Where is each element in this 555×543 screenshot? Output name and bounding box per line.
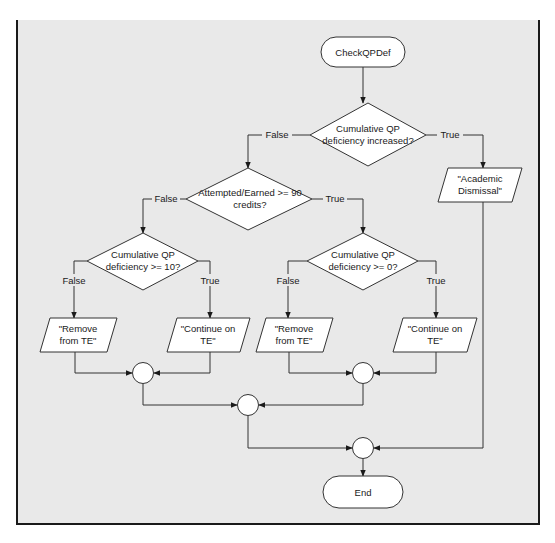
output-text: Dismissal" bbox=[458, 185, 502, 196]
output-text: "Continue on bbox=[408, 323, 463, 334]
label-d2-true: True bbox=[325, 193, 344, 204]
flowchart: False True False True False True False T… bbox=[0, 0, 555, 543]
output-remove-te-right: "Remove from TE" bbox=[256, 318, 333, 352]
output-text: "Continue on bbox=[181, 323, 236, 334]
output-text: TE" bbox=[200, 335, 216, 346]
output-continue-te-right: "Continue on TE" bbox=[393, 318, 477, 352]
edge-c1-to-c3 bbox=[143, 384, 237, 405]
start-terminal: CheckQPDef bbox=[321, 37, 405, 67]
label-d4-true: True bbox=[426, 275, 445, 286]
edge-o5-to-c2 bbox=[374, 352, 436, 373]
edge-d3-true bbox=[198, 261, 210, 318]
edge-d4-false bbox=[288, 261, 307, 318]
start-label: CheckQPDef bbox=[335, 47, 391, 58]
decision-text: deficiency >= 0? bbox=[328, 261, 397, 272]
decision-text: Cumulative QP bbox=[111, 249, 175, 260]
output-text: "Remove bbox=[59, 323, 98, 334]
edge-o2-to-c1 bbox=[75, 352, 132, 373]
connector-4 bbox=[353, 438, 374, 459]
edge-o4-to-c2 bbox=[289, 352, 352, 373]
decision-text: Attempted/Earned >= 90 bbox=[198, 187, 302, 198]
label-d3-true: True bbox=[200, 275, 219, 286]
decision-qp-ge-10: Cumulative QP deficiency >= 10? bbox=[87, 233, 198, 290]
label-d3-false: False bbox=[62, 275, 85, 286]
decision-text: deficiency >= 10? bbox=[106, 261, 180, 272]
output-academic-dismissal: "Academic Dismissal" bbox=[438, 168, 522, 202]
edge-d4-true bbox=[418, 261, 436, 318]
connector-3 bbox=[238, 395, 259, 416]
output-continue-te-left: "Continue on TE" bbox=[167, 318, 250, 352]
edge-c2-to-c3 bbox=[259, 384, 363, 405]
decision-qp-ge-0: Cumulative QP deficiency >= 0? bbox=[307, 233, 418, 290]
label-d4-false: False bbox=[276, 275, 299, 286]
end-terminal: End bbox=[323, 476, 403, 508]
output-text: from TE" bbox=[60, 335, 97, 346]
output-text: "Remove bbox=[275, 323, 314, 334]
output-remove-te-left: "Remove from TE" bbox=[40, 318, 117, 352]
output-text: "Academic bbox=[457, 173, 502, 184]
decision-credits-90: Attempted/Earned >= 90 credits? bbox=[186, 168, 312, 230]
decision-text: Cumulative QP bbox=[336, 123, 400, 134]
label-d1-true: True bbox=[440, 129, 459, 140]
label-d2-false: False bbox=[154, 193, 177, 204]
decision-text: Cumulative QP bbox=[331, 249, 395, 260]
decision-qp-increased: Cumulative QP deficiency increased? bbox=[310, 103, 426, 166]
end-label: End bbox=[355, 487, 372, 498]
output-text: from TE" bbox=[276, 335, 313, 346]
output-text: TE" bbox=[427, 335, 443, 346]
decision-text: credits? bbox=[233, 199, 266, 210]
connector-1 bbox=[133, 363, 154, 384]
edge-c3-to-c4 bbox=[248, 416, 352, 448]
edge-o3-to-c1 bbox=[154, 352, 210, 373]
connector-2 bbox=[353, 363, 374, 384]
decision-text: deficiency increased? bbox=[322, 135, 413, 146]
edge-d3-false bbox=[74, 261, 87, 318]
label-d1-false: False bbox=[265, 129, 288, 140]
